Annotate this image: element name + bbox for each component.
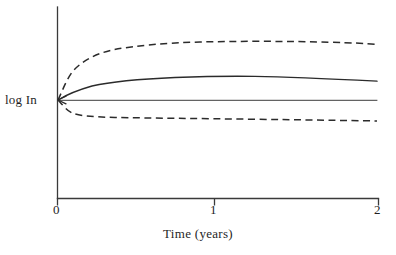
x-tick-label-0: 0 [53,203,60,216]
x-tick-label-1: 1 [210,203,217,216]
x-tick-label-2: 2 [374,203,381,216]
y-axis-label: log In [5,92,37,108]
x-axis-title: Time (years) [0,226,396,242]
series-lower-confidence-bound [58,100,377,121]
series-mean-trajectory [58,76,377,100]
chart-figure: log In 0 1 2 Time (years) [0,0,396,255]
series-upper-confidence-bound [58,41,377,100]
